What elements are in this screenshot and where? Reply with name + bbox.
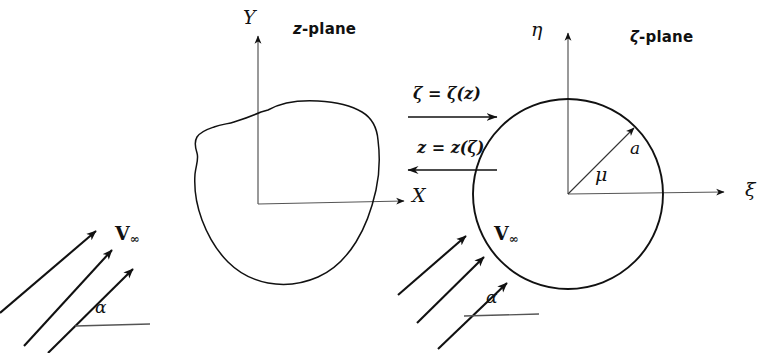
right-velocity-subscript: ∞ xyxy=(509,232,519,246)
left-freestream-velocity-label: V∞ xyxy=(115,224,140,245)
circle-angle-label: μ xyxy=(595,165,607,184)
zeta-plane-label-suffix: -plane xyxy=(639,28,693,46)
left-velocity-symbol: V xyxy=(115,222,130,244)
z-plane-label: z-plane xyxy=(293,22,356,37)
left-angle-of-attack-label: α xyxy=(95,299,106,316)
conformal-mapping-figure: Y X z-plane ζ = ζ(z) z = z(ζ) η ξ ζ-plan… xyxy=(0,0,777,353)
z-plane-x-axis-label: X xyxy=(412,186,426,205)
inverse-mapping-label: z = z(ζ) xyxy=(417,140,484,156)
freestream-arrow xyxy=(417,257,484,323)
right-freestream-velocity-label: V∞ xyxy=(494,224,519,245)
right-freestream-group xyxy=(0,0,777,353)
z-plane-y-axis-label: Y xyxy=(243,8,256,27)
circle-radius-label: a xyxy=(630,140,640,157)
zeta-plane-xi-axis-label: ξ xyxy=(745,180,755,199)
right-velocity-symbol: V xyxy=(494,222,509,244)
zeta-plane-eta-axis-label: η xyxy=(531,20,542,39)
z-plane-label-symbol: z xyxy=(293,20,302,38)
z-plane-label-suffix: -plane xyxy=(302,20,356,38)
right-angle-of-attack-label: α xyxy=(486,289,497,306)
left-velocity-subscript: ∞ xyxy=(130,232,140,246)
forward-mapping-label: ζ = ζ(z) xyxy=(413,86,481,102)
zeta-plane-label-symbol: ζ xyxy=(630,28,639,46)
zeta-plane-label: ζ-plane xyxy=(630,30,693,45)
